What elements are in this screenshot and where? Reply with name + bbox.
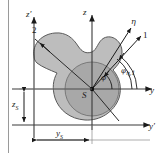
axis-label-y-prime: y′ xyxy=(149,122,155,131)
principal-axis-2-label: 2 xyxy=(32,26,37,35)
principal-axis-1-label: 1 xyxy=(143,31,148,40)
axis-label-y: y xyxy=(150,86,154,95)
centroid-label: S xyxy=(82,91,87,100)
eta-vector-label: η xyxy=(131,18,136,26)
angle-phi-eta-1-label: φη,1 xyxy=(121,68,135,76)
angle-phi-label: φ xyxy=(101,75,106,82)
diagram-canvas: z′ z y y′ 2 1 η S φ φη,1 zS yS xyxy=(0,0,163,153)
dimension-label-z-s: zS xyxy=(12,100,19,111)
dimension-label-y-s: yS xyxy=(56,129,63,140)
axis-label-z: z xyxy=(83,8,87,17)
axis-label-z-prime: z′ xyxy=(26,10,31,19)
diagram-graphics xyxy=(0,0,163,153)
